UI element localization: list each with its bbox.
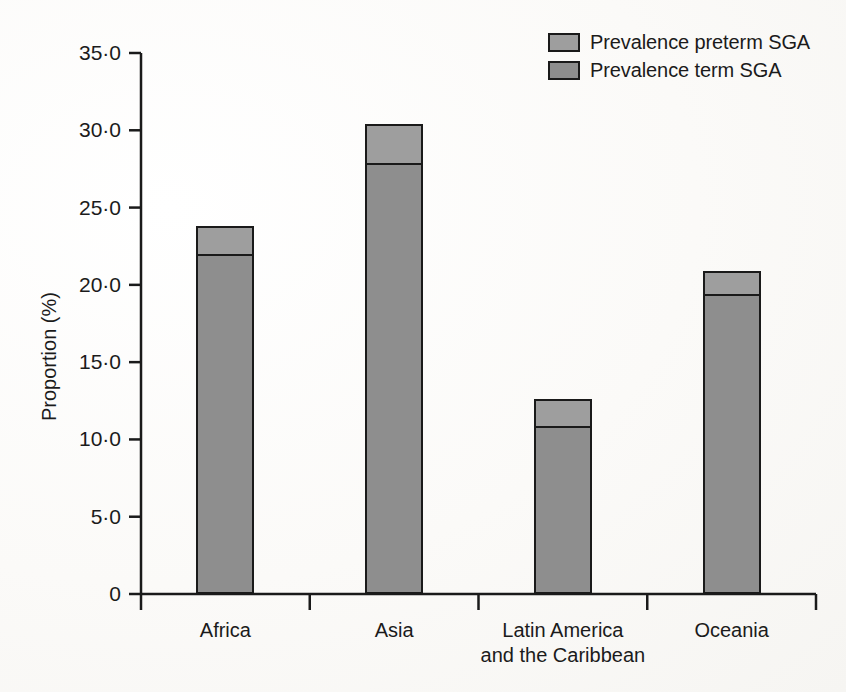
x-category-label-line: and the Caribbean	[479, 643, 648, 668]
bar-segment-term	[365, 163, 423, 594]
bar-segment-preterm	[196, 226, 254, 256]
bar-segment-term	[534, 426, 592, 594]
x-category-label-line: Oceania	[647, 618, 816, 643]
bar-segment-preterm	[703, 271, 761, 296]
y-tick-label: 30·0	[51, 118, 121, 142]
x-category-label-line: Asia	[310, 618, 479, 643]
y-tick-label: 0	[51, 582, 121, 606]
x-category-label-line: Latin America	[479, 618, 648, 643]
y-tick-label: 15·0	[51, 350, 121, 374]
x-category-label: Oceania	[647, 618, 816, 643]
bar-segment-term	[196, 254, 254, 594]
bar-segment-term	[703, 294, 761, 594]
y-tick-label: 20·0	[51, 273, 121, 297]
y-tick-label: 35·0	[51, 41, 121, 65]
plot-area: 05·010·015·020·025·030·035·0 AfricaAsiaL…	[0, 0, 846, 692]
y-tick-label: 10·0	[51, 427, 121, 451]
y-tick-label: 5·0	[51, 505, 121, 529]
x-category-label-line: Africa	[141, 618, 310, 643]
bar-segment-preterm	[365, 124, 423, 165]
x-category-label: Asia	[310, 618, 479, 643]
x-category-label: Latin Americaand the Caribbean	[479, 618, 648, 668]
y-tick-label: 25·0	[51, 196, 121, 220]
bar-segment-preterm	[534, 399, 592, 427]
x-category-label: Africa	[141, 618, 310, 643]
